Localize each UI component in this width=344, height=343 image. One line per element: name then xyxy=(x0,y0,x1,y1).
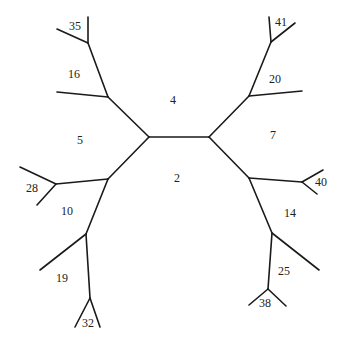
tree-labels: 3516452810193224120740142538 xyxy=(26,15,327,330)
region-label: 2 xyxy=(174,171,180,185)
tree-edge xyxy=(40,234,86,270)
tree-edge xyxy=(268,233,272,289)
tree-edge xyxy=(86,234,90,298)
region-label: 5 xyxy=(77,133,83,147)
tree-edge xyxy=(108,97,149,137)
tree-edge xyxy=(86,179,108,234)
tree-edge xyxy=(57,92,108,97)
tree-edge xyxy=(209,96,249,137)
region-label: 40 xyxy=(315,175,327,189)
region-label: 16 xyxy=(68,67,80,81)
region-label: 4 xyxy=(170,93,176,107)
region-label: 25 xyxy=(278,264,290,278)
tree-edge xyxy=(56,179,108,184)
tree-edge xyxy=(249,178,272,233)
tree-edge xyxy=(249,178,302,182)
phylogenetic-tree-diagram: 3516452810193224120740142538 xyxy=(0,0,344,343)
region-label: 10 xyxy=(61,204,73,218)
region-label: 19 xyxy=(56,271,68,285)
region-label: 35 xyxy=(69,19,81,33)
tree-edge xyxy=(209,137,249,178)
region-label: 38 xyxy=(259,296,271,310)
region-label: 32 xyxy=(82,316,94,330)
region-label: 28 xyxy=(26,181,38,195)
tree-edge xyxy=(37,184,56,205)
tree-edge xyxy=(249,42,271,96)
tree-edge xyxy=(88,43,108,97)
region-label: 14 xyxy=(284,206,296,220)
tree-edge xyxy=(108,137,149,179)
region-label: 41 xyxy=(275,15,287,29)
tree-edge xyxy=(269,17,271,42)
region-label: 7 xyxy=(270,128,276,142)
region-label: 20 xyxy=(269,72,281,86)
tree-edge xyxy=(249,91,302,96)
